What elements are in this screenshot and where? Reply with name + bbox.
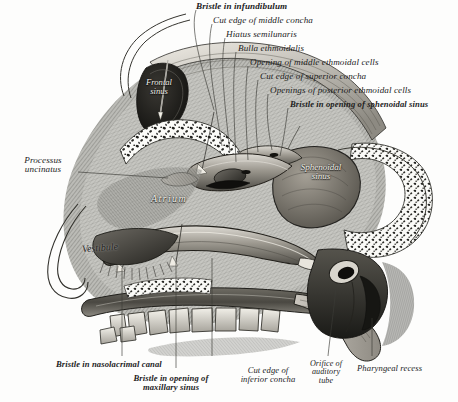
label-bristle-in-opening-of-maxillary-sinus: Bristle in opening of maxillary sinus [106,374,236,392]
nasal-cavity-engraving [0,0,458,402]
label-openings-of-posterior-ethmoidal-cells: Openings of posterior ethmoidal cells [270,86,411,95]
label-pharyngeal-recess: Pharyngeal recess [357,364,422,373]
processus-uncinatus-line2: uncinatus [6,165,80,174]
label-orifice-of-auditory-tube: Orifice of auditory tube [298,360,354,385]
auditory-tube-line3: tube [298,377,354,385]
label-bristle-in-opening-of-sphenoidal-sinus: Bristle in opening of sphenoidal sinus [290,100,428,109]
label-opening-of-middle-ethmoidal-cells: Opening of middle ethmoidal cells [250,58,379,67]
label-bulla-ethmoidalis: Bulla ethmoidalis [238,44,304,53]
label-bristle-in-nasolacrimal-canal: Bristle in nasolacrimal canal [56,360,162,369]
label-processus-uncinatus: Processus uncinatus [6,156,80,175]
label-bristle-in-infundibulum: Bristle in infundibulum [196,2,287,11]
anatomical-plate: Frontal sinus Sphenoidal sinus Atrium Ve… [0,0,458,402]
label-cut-edge-of-middle-concha: Cut edge of middle concha [213,16,313,25]
label-cut-edge-of-superior-concha: Cut edge of superior concha [260,72,366,81]
maxillary-sinus-line2: maxillary sinus [106,383,236,392]
label-hiatus-semilunaris: Hiatus semilunaris [226,30,297,39]
